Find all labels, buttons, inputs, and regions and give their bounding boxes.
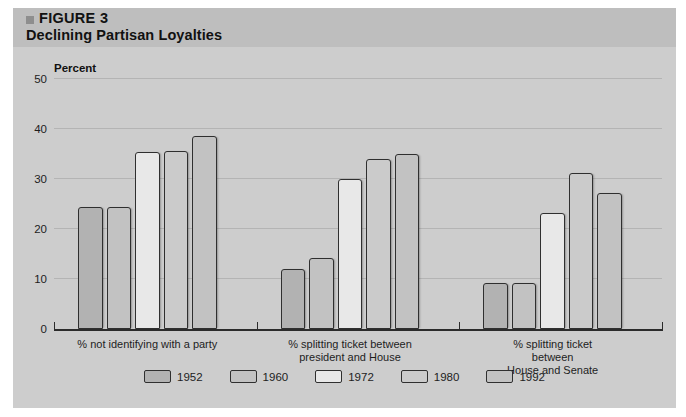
bar — [309, 258, 334, 329]
y-axis-tick-label: 50 — [34, 73, 47, 85]
legend-item: 1980 — [401, 370, 460, 383]
legend-swatch — [230, 370, 257, 383]
square-bullet-icon — [26, 16, 34, 24]
legend-item: 1952 — [144, 370, 203, 383]
x-axis-group-label: % splitting ticket between president and… — [288, 338, 412, 364]
figure-number: FIGURE 3 — [39, 10, 108, 26]
bar — [192, 136, 217, 329]
legend-item: 1960 — [230, 370, 289, 383]
y-axis-tick-label: 0 — [41, 323, 47, 335]
legend-swatch — [486, 370, 513, 383]
plot-area: 01020304050 — [54, 79, 662, 331]
bar — [597, 193, 622, 329]
legend-label: 1972 — [348, 371, 374, 383]
bar — [540, 213, 565, 330]
bar — [78, 207, 103, 330]
bar — [135, 152, 160, 330]
legend-swatch — [401, 370, 428, 383]
bar — [366, 159, 391, 329]
y-axis-tick-label: 30 — [34, 173, 47, 185]
chart-legend: 19521960197219801992 — [13, 370, 676, 383]
bar — [395, 154, 420, 329]
y-axis-tick-label: 10 — [34, 273, 47, 285]
y-axis-title: Percent — [54, 62, 96, 74]
legend-swatch — [144, 370, 171, 383]
figure-title: Declining Partisan Loyalties — [26, 27, 222, 43]
legend-item: 1972 — [315, 370, 374, 383]
x-axis-tick — [662, 322, 663, 331]
legend-label: 1992 — [519, 371, 545, 383]
bar — [483, 283, 508, 330]
legend-label: 1952 — [177, 371, 203, 383]
y-axis-tick-label: 20 — [34, 223, 47, 235]
gridline — [54, 128, 662, 129]
bar — [338, 179, 363, 329]
legend-item: 1992 — [486, 370, 545, 383]
y-axis-tick-label: 40 — [34, 123, 47, 135]
bar — [569, 173, 594, 329]
gridline — [54, 78, 662, 79]
x-axis-group-label: % not identifying with a party — [77, 338, 217, 351]
bar — [164, 151, 189, 330]
legend-label: 1980 — [434, 371, 460, 383]
legend-swatch — [315, 370, 342, 383]
bar — [107, 207, 132, 330]
bar — [512, 283, 537, 330]
figure-header-band: FIGURE 3 Declining Partisan Loyalties — [13, 8, 676, 47]
legend-label: 1960 — [263, 371, 289, 383]
bar — [281, 269, 306, 329]
figure-container: FIGURE 3 Declining Partisan Loyalties Pe… — [13, 8, 676, 408]
x-axis-baseline — [54, 329, 662, 331]
